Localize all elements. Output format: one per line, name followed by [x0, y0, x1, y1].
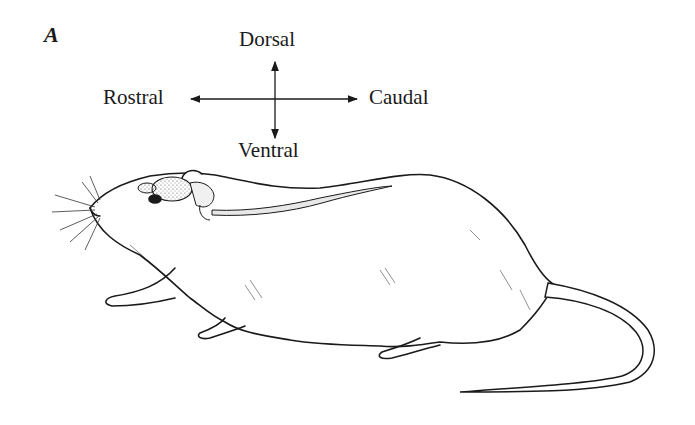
- direction-compass: [191, 62, 357, 138]
- rat-diagram: [0, 0, 695, 425]
- cerebrum: [152, 177, 192, 201]
